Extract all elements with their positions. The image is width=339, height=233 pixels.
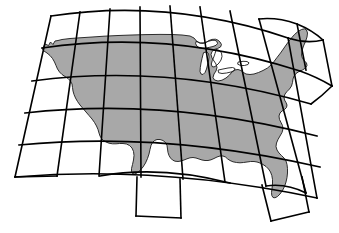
map-figure [0, 0, 339, 233]
grid-southwest-step [15, 176, 57, 177]
map-svg [0, 0, 339, 233]
grid-texas-extension-left [136, 177, 137, 216]
grid-meridian-3 [140, 7, 141, 177]
grid-texas-extension-right [180, 179, 181, 218]
